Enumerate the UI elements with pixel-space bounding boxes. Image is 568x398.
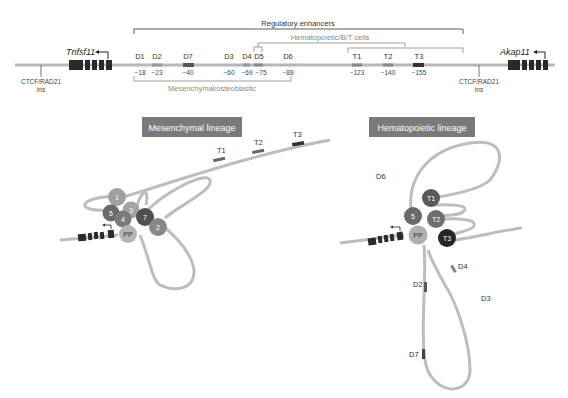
tss-arrow-icon xyxy=(393,227,400,231)
gene-label-tnfsf11: Tnfsf11 xyxy=(66,47,95,57)
mark-D7 xyxy=(422,349,425,359)
enhancer-D2: D2 −23 xyxy=(151,52,162,76)
ball-T1: T1 xyxy=(422,189,440,207)
svg-text:PP: PP xyxy=(123,231,133,238)
hematopoietic-lineage-panel: Hematopoietic lineage D6 D4 D2 D3 D7 xyxy=(340,117,522,389)
loop-label-T1: T1 xyxy=(217,146,226,155)
svg-text:D1: D1 xyxy=(135,52,145,61)
loop-label-D7: D7 xyxy=(409,350,419,359)
svg-text:−18: −18 xyxy=(134,69,145,76)
ball-T3: T3 xyxy=(438,229,456,247)
svg-text:−60: −60 xyxy=(223,69,234,76)
svg-text:1: 1 xyxy=(115,194,119,201)
svg-text:3: 3 xyxy=(129,207,133,214)
svg-text:2: 2 xyxy=(156,224,160,231)
diagram-canvas: Tnfsf11 Akap11 CTCF/RAD21 ins CTCF/RAD21… xyxy=(0,0,568,398)
svg-text:T3: T3 xyxy=(415,52,424,61)
ball-T2: T2 xyxy=(427,210,445,228)
svg-text:D5: D5 xyxy=(254,52,264,61)
svg-text:D2: D2 xyxy=(152,52,162,61)
svg-text:T1: T1 xyxy=(427,195,435,202)
svg-text:D6: D6 xyxy=(283,52,293,61)
gene-label-akap11: Akap11 xyxy=(499,47,530,57)
svg-text:4: 4 xyxy=(121,216,125,223)
ctcf-right-sublabel: ins xyxy=(475,86,484,93)
svg-text:−75: −75 xyxy=(255,69,266,76)
svg-text:−40: −40 xyxy=(182,69,193,76)
svg-text:−23: −23 xyxy=(151,69,162,76)
ball-2: 2 xyxy=(149,218,167,236)
loop-label-D2: D2 xyxy=(413,280,423,289)
svg-text:D4: D4 xyxy=(242,52,252,61)
ctcf-right-label: CTCF/RAD21 xyxy=(459,78,499,85)
ball-4: 4 xyxy=(115,211,132,228)
ctcf-left-sublabel: ins xyxy=(37,86,46,93)
ball-1: 1 xyxy=(108,188,126,206)
tss-arrow-icon xyxy=(105,225,111,229)
mesenchymal-gene-blocks xyxy=(78,224,115,242)
loop-label-T2: T2 xyxy=(254,138,263,147)
svg-text:T3: T3 xyxy=(443,235,451,242)
svg-text:−69: −69 xyxy=(241,69,252,76)
mark-D4 xyxy=(450,265,457,273)
svg-text:T2: T2 xyxy=(384,52,393,61)
svg-text:−88: −88 xyxy=(282,69,293,76)
svg-text:T2: T2 xyxy=(432,216,440,223)
loop-label-T3: T3 xyxy=(293,130,302,139)
hematopoietic-gene-blocks xyxy=(368,226,404,246)
tss-arrow-icon xyxy=(537,52,545,59)
svg-text:−123: −123 xyxy=(350,69,365,76)
bracket-mesenchymal xyxy=(134,76,291,81)
svg-text:D3: D3 xyxy=(224,52,234,61)
bracket-mesenchymal-label: Mesenchymal/osteoblastic xyxy=(168,84,256,93)
svg-text:PP: PP xyxy=(413,232,423,239)
enhancer-D7: D7 −40 xyxy=(182,52,194,76)
tss-arrow-icon xyxy=(99,52,108,59)
svg-text:7: 7 xyxy=(143,214,147,221)
svg-text:−140: −140 xyxy=(381,69,396,76)
ball-5: 5 xyxy=(404,207,422,225)
svg-text:D7: D7 xyxy=(183,52,193,61)
bracket-regulatory-label: Regulatory enhancers xyxy=(261,19,335,28)
svg-text:−155: −155 xyxy=(412,69,427,76)
ball-pp: PP xyxy=(119,225,137,243)
loop-label-D4: D4 xyxy=(458,262,468,271)
mesenchymal-title: Mesenchymal lineage xyxy=(148,123,235,133)
mesenchymal-lineage-panel: Mesenchymal lineage T1 T2 T3 1 xyxy=(60,117,330,289)
svg-text:5: 5 xyxy=(411,213,415,220)
svg-text:5: 5 xyxy=(109,210,113,217)
hematopoietic-title: Hematopoietic lineage xyxy=(377,123,466,133)
bracket-hematopoietic-label: Hematopoietic/B/T cells xyxy=(291,33,370,42)
linear-locus-map: Tnfsf11 Akap11 CTCF/RAD21 ins CTCF/RAD21… xyxy=(15,19,555,93)
loop-label-D3: D3 xyxy=(481,294,491,303)
svg-text:T1: T1 xyxy=(353,52,362,61)
loop-label-D6: D6 xyxy=(376,172,386,181)
ball-pp: PP xyxy=(409,226,428,245)
mark-D2 xyxy=(424,282,427,292)
ctcf-left-label: CTCF/RAD21 xyxy=(21,78,61,85)
